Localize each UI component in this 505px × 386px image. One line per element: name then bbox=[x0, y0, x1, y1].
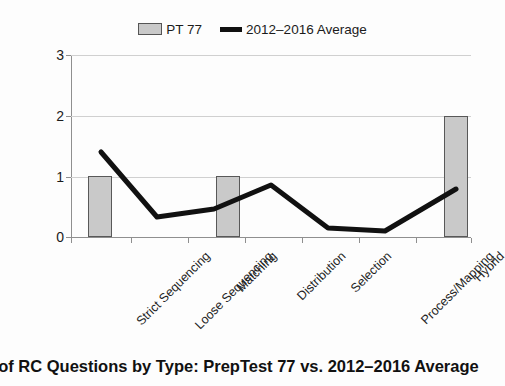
y-tick-label-2: 2 bbox=[38, 108, 64, 124]
chart-legend: PT 77 2012–2016 Average bbox=[0, 18, 505, 40]
x-axis-label-distribution: Distribution bbox=[294, 249, 348, 303]
x-tick-mark-6 bbox=[416, 238, 417, 243]
chart-title: er of RC Questions by Type: PrepTest 77 … bbox=[0, 357, 505, 376]
x-tick-mark-2 bbox=[188, 238, 189, 243]
x-axis-label-selection: Selection bbox=[348, 249, 394, 295]
chart-container: PT 77 2012–2016 Average 3 2 1 0 St bbox=[0, 0, 505, 386]
legend-entry-average: 2012–2016 Average bbox=[220, 22, 367, 37]
legend-label-pt77: PT 77 bbox=[166, 22, 202, 37]
x-tick-mark-3 bbox=[245, 238, 246, 243]
y-tick-label-0: 0 bbox=[38, 229, 64, 245]
x-tick-mark-4 bbox=[302, 238, 303, 243]
legend-label-average: 2012–2016 Average bbox=[246, 22, 367, 37]
x-tick-mark-7 bbox=[471, 238, 472, 243]
legend-line-swatch-icon bbox=[220, 27, 242, 32]
plot-area bbox=[71, 55, 471, 237]
x-tick-mark-5 bbox=[359, 238, 360, 243]
average-line-series bbox=[71, 55, 471, 237]
y-tick-label-3: 3 bbox=[38, 47, 64, 63]
x-tick-mark-0 bbox=[71, 238, 72, 243]
y-tick-label-1: 1 bbox=[38, 169, 64, 185]
average-line-path bbox=[101, 152, 456, 231]
legend-entry-pt77: PT 77 bbox=[138, 22, 202, 37]
x-tick-mark-1 bbox=[131, 238, 132, 243]
legend-bar-swatch-icon bbox=[138, 23, 162, 35]
